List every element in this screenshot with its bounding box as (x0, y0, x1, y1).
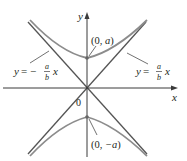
svg-text:b: b (45, 73, 49, 82)
svg-text:y: y (135, 65, 141, 77)
y-axis-label: y (77, 10, 83, 22)
pointer-upper-vertex (89, 46, 96, 56)
pointer-pos-asymptote (127, 53, 148, 64)
hyperbola-diagram: y x 0 (0, a) (0, −a) y = − a b x y = a b… (0, 0, 187, 161)
svg-text:=: = (143, 65, 149, 77)
svg-text:y: y (13, 65, 19, 77)
vertex-lower-dot (85, 115, 89, 119)
pointer-lower-vertex (89, 119, 97, 135)
vertex-upper-dot (85, 56, 89, 60)
svg-text:x: x (52, 65, 58, 77)
x-axis-label: x (171, 91, 177, 103)
hyperbola-lower-branch (30, 117, 147, 156)
svg-text:x: x (164, 65, 170, 77)
origin-label: 0 (76, 97, 81, 108)
svg-text:= −: = − (21, 65, 36, 77)
svg-text:a: a (45, 62, 49, 71)
svg-text:b: b (157, 73, 161, 82)
x-axis-arrow-icon (171, 86, 178, 91)
svg-text:a: a (157, 62, 161, 71)
vertex-lower-label: (0, −a) (91, 139, 121, 151)
y-axis-arrow-icon (85, 12, 90, 19)
vertex-upper-label: (0, a) (91, 35, 114, 47)
asymptote-negative-label: y = − a b x (13, 62, 58, 82)
asymptote-positive-label: y = a b x (135, 62, 170, 82)
